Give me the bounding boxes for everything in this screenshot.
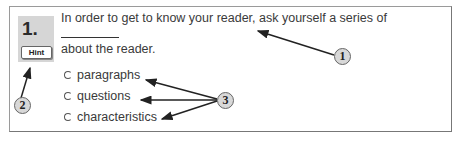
callout-3: 3 (217, 92, 234, 109)
arrow-callout-2 (21, 68, 30, 98)
arrow-callout-1 (258, 31, 334, 55)
callout-1: 1 (334, 48, 351, 65)
arrow-callout-3c (162, 101, 217, 119)
callout-2: 2 (14, 97, 31, 114)
arrow-callout-3a (146, 80, 217, 99)
annotation-arrows (0, 0, 462, 148)
